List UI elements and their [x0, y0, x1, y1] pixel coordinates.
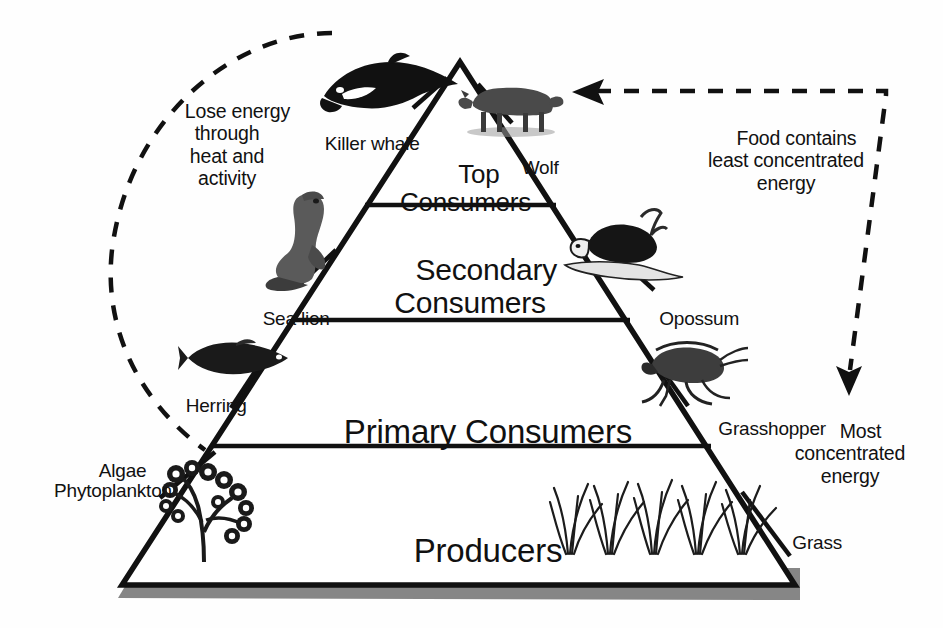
- wolf-illustration: [455, 68, 567, 138]
- arrowhead-to-producers: [836, 366, 862, 396]
- organism-label-wolf: Wolf: [495, 137, 565, 199]
- organism-label-grass: Grass: [772, 512, 842, 574]
- tier-label-primary-consumers: Primary Consumers: [300, 378, 640, 485]
- energy-pyramid-diagram: Top Consumers Secondary Consumers Primar…: [0, 0, 943, 628]
- organism-label-sea-lion: Sea lion: [238, 288, 334, 350]
- annotation-food-least-concentrated: Food contains least concentrated energy: [684, 105, 888, 216]
- annotation-most-concentrated: Most concentrated energy: [772, 398, 928, 509]
- tier-label-producers: Producers: [370, 497, 570, 604]
- killer-whale-illustration: [318, 50, 468, 122]
- organism-label-algae-phytoplankton: Algae Phytoplankton: [38, 440, 188, 522]
- annotation-lose-energy: Lose energy through heat and activity: [135, 78, 319, 211]
- organism-label-herring: Herring: [160, 375, 252, 437]
- organism-label-opossum: Opossum: [637, 288, 741, 350]
- tier-label-secondary-consumers: Secondary Consumers: [370, 222, 570, 352]
- opossum-illustration: [565, 205, 687, 291]
